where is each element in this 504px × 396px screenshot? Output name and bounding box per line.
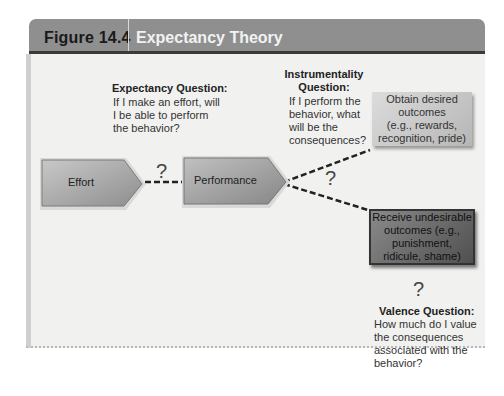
effort-node: Effort xyxy=(38,154,146,210)
undesirable-line: Receive undesirable xyxy=(372,211,472,224)
valence-line: associated with the xyxy=(374,344,477,357)
undesirable-line: outcomes (e.g., xyxy=(372,224,472,237)
valence-line: behavior? xyxy=(374,357,477,370)
instrumentality-line: will be the xyxy=(289,121,366,134)
instrumentality-line: consequences? xyxy=(289,134,366,147)
instrumentality-question-heading: Instrumentality Question: xyxy=(280,68,368,94)
desired-line: outcomes xyxy=(378,106,466,119)
valence-question-heading: Valence Question: xyxy=(379,305,474,318)
instrumentality-question-mark: ? xyxy=(325,167,336,190)
undesirable-line: ridicule, shame) xyxy=(372,250,472,263)
instrumentality-heading-line: Question: xyxy=(280,81,368,94)
desired-outcomes-box: Obtain desired outcomes (e.g., rewards, … xyxy=(372,92,472,146)
expectancy-line: the behavior? xyxy=(113,122,220,135)
desired-line: Obtain desired xyxy=(378,93,466,106)
instrumentality-heading-line: Instrumentality xyxy=(280,68,368,81)
valence-question-text: How much do I value the consequences ass… xyxy=(374,318,477,370)
valence-line: the consequences xyxy=(374,331,477,344)
performance-node: Performance xyxy=(180,152,290,208)
expectancy-line: I be able to perform xyxy=(113,109,220,122)
undesirable-outcomes-box: Receive undesirable outcomes (e.g., puni… xyxy=(369,209,475,265)
expectancy-line: If I make an effort, will xyxy=(113,96,220,109)
effort-label: Effort xyxy=(68,154,94,210)
undesirable-line: punishment, xyxy=(372,237,472,250)
valence-line: How much do I value xyxy=(374,318,477,331)
expectancy-question-heading: Expectancy Question: xyxy=(112,82,228,95)
valence-question-mark: ? xyxy=(413,278,424,301)
expectancy-question-mark: ? xyxy=(156,160,167,183)
instrumentality-line: behavior, what xyxy=(289,108,366,121)
desired-line: recognition, pride) xyxy=(378,132,466,145)
expectancy-question-text: If I make an effort, will I be able to p… xyxy=(113,96,220,135)
desired-line: (e.g., rewards, xyxy=(378,119,466,132)
performance-label: Performance xyxy=(194,152,257,208)
instrumentality-question-text: If I perform the behavior, what will be … xyxy=(289,95,366,147)
instrumentality-line: If I perform the xyxy=(289,95,366,108)
